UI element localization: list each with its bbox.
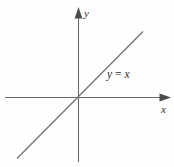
equation-annotation: y=x [106, 68, 131, 81]
equation-lhs: y [106, 68, 113, 81]
coordinate-plane-svg: y x y=x [0, 0, 174, 167]
graph-figure: y x y=x [0, 0, 174, 167]
x-axis-arrow-icon [160, 94, 172, 102]
equation-rhs: x [124, 68, 131, 80]
x-axis-label: x [160, 103, 166, 115]
y-axis-label: y [83, 7, 89, 19]
line-y-equals-x [17, 32, 143, 159]
y-axis-arrow-icon [75, 7, 83, 19]
equation-operator: = [115, 68, 122, 80]
